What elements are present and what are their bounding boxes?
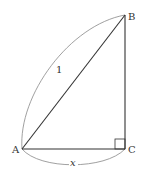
side-AB	[22, 15, 125, 149]
base-length-label: x	[70, 157, 76, 168]
vertex-label-C: C	[128, 144, 136, 155]
vertex-label-B: B	[128, 11, 135, 22]
hypotenuse-length-label: 1	[56, 64, 62, 75]
vertex-label-A: A	[11, 144, 20, 155]
triangle-diagram: A B C 1 x	[0, 0, 146, 180]
right-angle-marker	[115, 139, 125, 149]
